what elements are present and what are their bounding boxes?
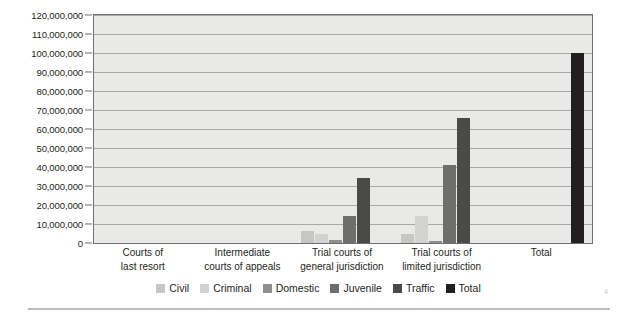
y-axis-tick-label: 70,000,000 xyxy=(36,105,83,116)
legend-item[interactable]: Juvenile xyxy=(330,282,382,294)
y-axis-tick-label: 110,000,000 xyxy=(32,29,83,40)
legend-label: Criminal xyxy=(213,282,252,294)
bar xyxy=(429,241,442,243)
bar-group xyxy=(94,15,194,243)
bar xyxy=(343,216,356,243)
legend-swatch-icon xyxy=(156,284,165,293)
y-axis-tick-label: 30,000,000 xyxy=(36,181,83,192)
bar xyxy=(301,231,314,243)
y-axis-tick-mark xyxy=(85,186,92,187)
legend-item[interactable]: Domestic xyxy=(263,282,320,294)
y-axis-tick-label: 0 xyxy=(78,238,83,249)
x-axis-tick-label-line: limited jurisdiction xyxy=(392,260,492,274)
y-axis-tick-label: 50,000,000 xyxy=(36,143,83,154)
bar xyxy=(357,178,370,243)
footer-divider xyxy=(28,308,610,310)
x-axis-tick-label-line: Trial courts of xyxy=(292,246,392,260)
y-axis-tick-label: 40,000,000 xyxy=(36,162,83,173)
x-axis-tick-label: Total xyxy=(491,246,591,260)
bar xyxy=(457,118,470,243)
legend-swatch-icon xyxy=(393,284,402,293)
x-axis-tick-label-line: courts of appeals xyxy=(193,260,293,274)
x-axis-tick-label-line: Intermediate xyxy=(193,246,293,260)
bar-group xyxy=(492,15,592,243)
x-axis-tick-label: Courts oflast resort xyxy=(93,246,193,273)
y-axis-tick-mark xyxy=(85,91,92,92)
bar xyxy=(329,240,342,243)
bar-chart-figure: 010,000,00020,000,00030,000,00040,000,00… xyxy=(0,0,637,321)
x-axis-tick-label-line: Total xyxy=(491,246,591,260)
y-axis-tick-label: 120,000,000 xyxy=(31,10,83,21)
x-axis-tick-label-line: Courts of xyxy=(93,246,193,260)
legend-swatch-icon xyxy=(330,284,339,293)
y-axis-tick-mark xyxy=(85,34,92,35)
bar-group xyxy=(393,15,493,243)
y-axis-tick-label: 20,000,000 xyxy=(36,200,83,211)
y-axis-tick-label: 80,000,000 xyxy=(36,86,83,97)
y-axis-tick-label: 60,000,000 xyxy=(36,124,83,135)
y-axis-tick-label: 10,000,000 xyxy=(36,219,83,230)
legend-swatch-icon xyxy=(263,284,272,293)
y-axis-tick-mark xyxy=(85,72,92,73)
x-axis-tick-label-line: last resort xyxy=(93,260,193,274)
x-axis-tick-label-line: Trial courts of xyxy=(392,246,492,260)
chart-legend: CivilCriminalDomesticJuvenileTrafficTota… xyxy=(0,280,637,296)
legend-label: Total xyxy=(459,282,481,294)
bar xyxy=(571,53,584,243)
legend-item[interactable]: Criminal xyxy=(200,282,252,294)
bar-group xyxy=(293,15,393,243)
x-axis: Courts oflast resortIntermediatecourts o… xyxy=(93,246,593,278)
bar-group xyxy=(194,15,294,243)
legend-item[interactable]: Civil xyxy=(156,282,189,294)
y-axis-tick-mark xyxy=(85,110,92,111)
legend-item[interactable]: Total xyxy=(446,282,481,294)
y-axis-tick-mark xyxy=(85,129,92,130)
bar xyxy=(401,234,414,244)
x-axis-tick-label-line: general jurisdiction xyxy=(292,260,392,274)
y-axis-tick-mark xyxy=(85,205,92,206)
bar xyxy=(415,216,428,243)
x-axis-tick-label: Intermediatecourts of appeals xyxy=(193,246,293,273)
y-axis-tick-mark xyxy=(85,53,92,54)
bar xyxy=(315,234,328,243)
y-axis-tick-mark xyxy=(85,15,92,16)
legend-label: Traffic xyxy=(406,282,435,294)
x-axis-tick-label: Trial courts ofgeneral jurisdiction xyxy=(292,246,392,273)
y-axis-tick-mark xyxy=(85,243,92,244)
y-axis-tick-mark xyxy=(85,167,92,168)
legend-label: Juvenile xyxy=(343,282,382,294)
legend-swatch-icon xyxy=(200,284,209,293)
bars-layer xyxy=(94,15,592,243)
legend-swatch-icon xyxy=(446,284,455,293)
y-axis-tick-label: 100,000,000 xyxy=(31,48,83,59)
page-corner-mark: 4 xyxy=(604,288,608,295)
y-axis-tick-mark xyxy=(85,148,92,149)
x-axis-tick-label: Trial courts oflimited jurisdiction xyxy=(392,246,492,273)
y-axis: 010,000,00020,000,00030,000,00040,000,00… xyxy=(0,0,93,246)
legend-item[interactable]: Traffic xyxy=(393,282,435,294)
bar xyxy=(443,165,456,243)
legend-label: Domestic xyxy=(276,282,320,294)
y-axis-tick-mark xyxy=(85,224,92,225)
legend-label: Civil xyxy=(169,282,189,294)
y-axis-tick-label: 90,000,000 xyxy=(36,67,83,78)
